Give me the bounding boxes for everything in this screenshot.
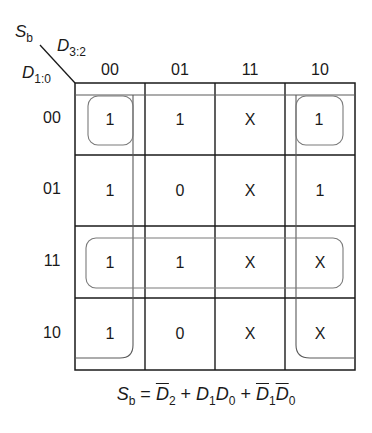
- row-variable-label: D1:0: [22, 63, 51, 83]
- kmap-cell: 1: [285, 156, 355, 226]
- kmap-cell: 1: [145, 228, 215, 298]
- kmap-cell: X: [215, 228, 285, 298]
- column-header: 01: [160, 61, 200, 79]
- kmap-cell: 1: [75, 85, 145, 155]
- column-header: 10: [300, 61, 340, 79]
- kmap-cell: 1: [75, 156, 145, 226]
- kmap-cell: X: [215, 156, 285, 226]
- kmap-cell: 1: [75, 228, 145, 298]
- kmap-cell: X: [215, 85, 285, 155]
- kmap-cell: X: [285, 228, 355, 298]
- kmap-cell: X: [215, 299, 285, 369]
- kmap-cell: 1: [284, 85, 354, 155]
- column-header: 11: [230, 61, 270, 79]
- row-header: 00: [32, 109, 72, 127]
- kmap-cell: X: [285, 299, 355, 369]
- row-header: 01: [32, 180, 72, 198]
- kmap-cell: 1: [75, 299, 145, 369]
- kmap-cell: 1: [145, 85, 215, 155]
- kmap-cell: 0: [145, 299, 215, 369]
- kmap-cell: 0: [145, 156, 215, 226]
- row-header: 11: [32, 252, 72, 270]
- boolean-equation: Sb = D2 + D1D0 + D1D0: [0, 384, 372, 405]
- output-label: Sb: [15, 22, 33, 42]
- row-header: 10: [32, 324, 72, 342]
- column-variable-label: D3:2: [57, 36, 86, 56]
- column-header: 00: [90, 61, 130, 79]
